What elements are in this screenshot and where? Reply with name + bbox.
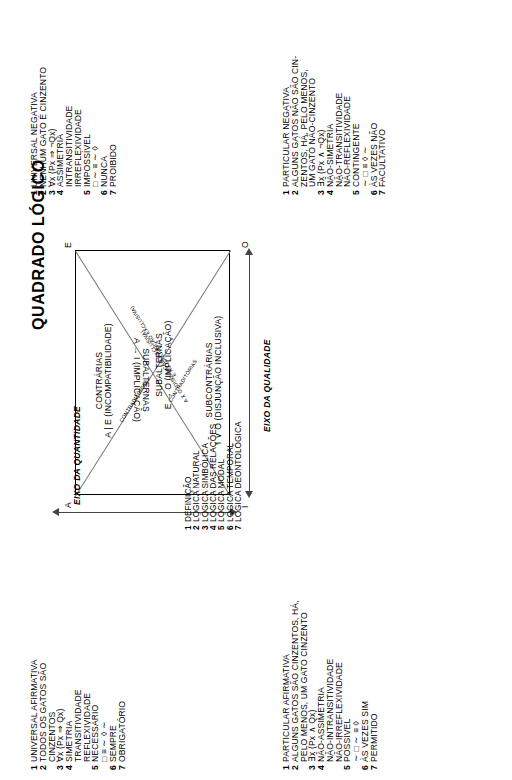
- quadrant-i-line-number: 7: [370, 762, 379, 770]
- quadrant-i-line-text: PERMITIDO: [369, 713, 379, 762]
- quadrant-a-line: 7OBRIGATÓRIO: [118, 659, 127, 770]
- quadrant-o-line-number: 5: [352, 187, 361, 195]
- quadrant-i-line-number: 5: [343, 762, 352, 770]
- center-legend-line-number: 7: [235, 522, 243, 530]
- axis-quality-arrow-bottom: [245, 491, 253, 498]
- quadrant-a-list: 1UNIVERSAL AFIRMATIVA2TODOS OS GATOS SÃO…: [30, 659, 126, 770]
- axis-quantity-arrow-start: [52, 508, 59, 516]
- quadrant-i-list: 1PARTICULAR AFIRMATIVA2ALGUNS GATOS SÃO …: [282, 600, 378, 770]
- center-legend-line: 7LÓGICA DEONTOLÓGICA: [235, 422, 243, 530]
- axis-quality-label: EIXO DA QUALIDADE: [262, 339, 272, 432]
- corner-label-e: E: [63, 242, 73, 248]
- axis-quality-rule: [249, 255, 250, 491]
- quadrant-o-line-text: FACULTATIVO: [377, 129, 387, 187]
- quadrant-a-line-number: 5: [91, 762, 100, 770]
- quadrant-o-line-number: 2: [291, 187, 300, 195]
- axis-quality-arrow-top: [245, 248, 253, 255]
- quadrant-e-line-text: PROIBIDO: [108, 144, 118, 187]
- quadrant-e-line-number: 5: [83, 187, 92, 195]
- quadrant-o-line-number: 4: [326, 187, 335, 195]
- quadrant-o-line: 7FACULTATIVO: [378, 56, 387, 195]
- quadrant-a-line-number: 7: [118, 762, 127, 770]
- quadrant-i-line-number: 4: [317, 762, 326, 770]
- axis-quantity-label: EIXO DA QUANTIDADE: [72, 406, 82, 505]
- quadrant-i-line-number: 2: [291, 762, 300, 770]
- quadrant-a-line-text: OBRIGATÓRIO: [117, 701, 127, 762]
- center-legend-list: 1DEFINIÇÃO2LÓGICA NATURAL3LÓGICA SIMBÓLI…: [185, 422, 244, 530]
- quadrant-e-list: 1UNIVERSAL NEGATIVA2NENHUM GATO É CINZEN…: [30, 67, 118, 195]
- quadrant-o-line-number: 7: [378, 187, 387, 195]
- quadrant-i-line: 7PERMITIDO: [370, 600, 379, 770]
- quadrant-e-line-number: 7: [109, 187, 118, 195]
- contrarias-label: CONTRÁRIAS A | E (INCOMPATIBILIDADE): [95, 293, 113, 468]
- contrarias-line2: A | E (INCOMPATIBILIDADE): [104, 293, 113, 468]
- quadrant-e-line: 7PROIBIDO: [109, 67, 118, 195]
- quadrant-a-line-number: 2: [39, 762, 48, 770]
- quadrant-o-list: 1PARTICULAR NEGATIVA2ALGUNS GATOS NÃO SÃ…: [282, 56, 387, 195]
- quadrant-a-line-number: 4: [65, 762, 74, 770]
- corner-label-o: O: [240, 241, 250, 248]
- center-legend-line-text: LÓGICA DEONTOLÓGICA: [234, 422, 243, 522]
- quadrant-e-line-number: 4: [56, 187, 65, 195]
